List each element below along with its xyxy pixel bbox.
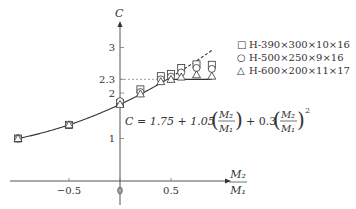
legend-item: △H-600×200×11×17 <box>237 64 350 77</box>
y-axis-arrow-icon <box>118 21 123 27</box>
y-axis-label: C <box>115 7 124 20</box>
circle-marker-icon <box>208 65 215 72</box>
legend-item: ○H-500×250×9×16 <box>237 51 350 64</box>
legend-label: H-600×200×11×17 <box>249 64 350 77</box>
svg-text:+ 0.3: + 0.3 <box>246 115 276 128</box>
svg-text:M₂: M₂ <box>229 168 246 181</box>
svg-text:M₂: M₂ <box>218 109 233 120</box>
x-tick-label: 0 <box>117 185 123 196</box>
y-tick-label: 2.3 <box>99 74 115 85</box>
svg-text:): ) <box>235 108 243 132</box>
y-tick-label: 3 <box>109 42 115 53</box>
triangle-marker-icon <box>193 71 201 78</box>
legend: □H-390×300×10×16○H-500×250×9×16△H-600×20… <box>237 38 350 77</box>
triangle-marker-icon <box>208 72 216 79</box>
x-tick-label: 0.5 <box>163 185 179 196</box>
x-axis-label: M₂ M₁ <box>229 168 247 197</box>
svg-text:M₂: M₂ <box>280 109 295 120</box>
svg-text:M₁: M₁ <box>218 123 233 134</box>
y-tick-label: 1 <box>109 133 115 144</box>
svg-text:M₁: M₁ <box>280 123 295 134</box>
legend-item: □H-390×300×10×16 <box>237 38 350 51</box>
circle-marker-icon: ○ <box>237 51 249 64</box>
svg-text:(: ( <box>211 108 219 132</box>
legend-label: H-500×250×9×16 <box>249 51 344 64</box>
svg-text:M₁: M₁ <box>229 184 246 197</box>
y-tick-label: 2 <box>109 88 115 99</box>
square-marker-icon: □ <box>237 38 249 51</box>
svg-text:C = 1.75 + 1.05: C = 1.75 + 1.05 <box>125 115 215 128</box>
triangle-marker-icon: △ <box>237 64 249 77</box>
svg-text:(: ( <box>273 108 281 132</box>
svg-text:): ) <box>297 108 305 132</box>
legend-label: H-390×300×10×16 <box>249 38 350 51</box>
svg-text:2: 2 <box>305 106 310 115</box>
formula-annotation: C = 1.75 + 1.05 ( M₂ M₁ ) + 0.3 ( M₂ M₁ … <box>125 105 355 142</box>
x-tick-label: −0.5 <box>57 185 81 196</box>
